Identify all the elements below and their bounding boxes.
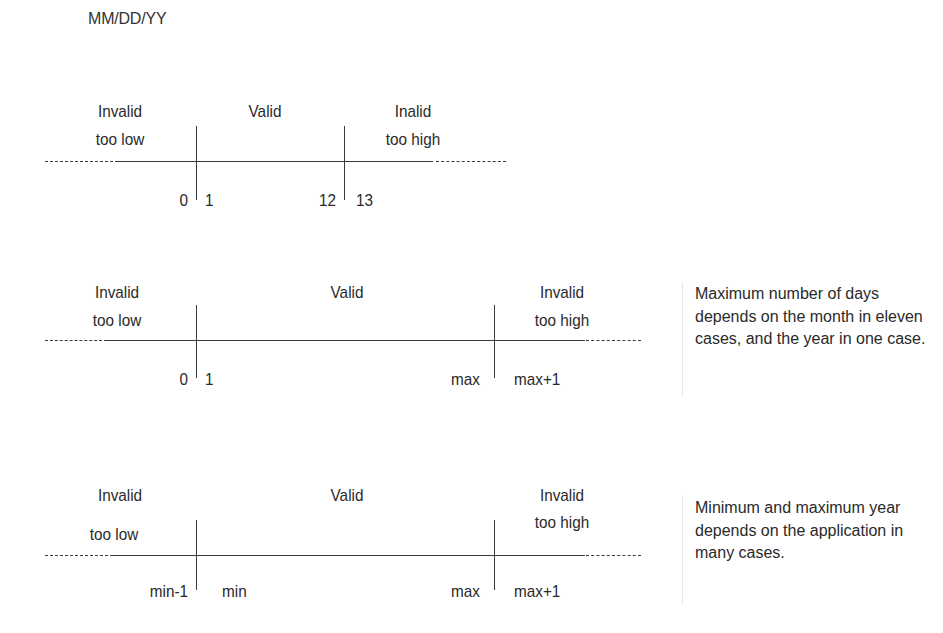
note-divider	[682, 495, 683, 605]
invalid-low-dashed-line	[45, 555, 113, 556]
invalid-low-label: Invalid	[75, 484, 165, 508]
invalid-high-dashed-line	[586, 555, 641, 556]
upper-boundary-tick	[494, 520, 495, 590]
invalid-high-label: Invalid	[517, 484, 607, 508]
lower-boundary-tick	[196, 520, 197, 590]
too-low-label: too low	[69, 523, 159, 547]
year-range-note: Minimum and maximum year depends on the …	[695, 497, 925, 565]
upper-inside-value: max	[435, 580, 480, 604]
lower-inside-value: min	[222, 580, 247, 604]
too-high-label: too high	[517, 511, 607, 535]
number-line	[113, 555, 585, 556]
valid-label: Valid	[302, 484, 392, 508]
year-range-diagram: Invalid too low Valid Invalid too high m…	[0, 0, 943, 633]
lower-outside-value: min-1	[125, 580, 188, 604]
upper-outside-value: max+1	[514, 580, 560, 604]
